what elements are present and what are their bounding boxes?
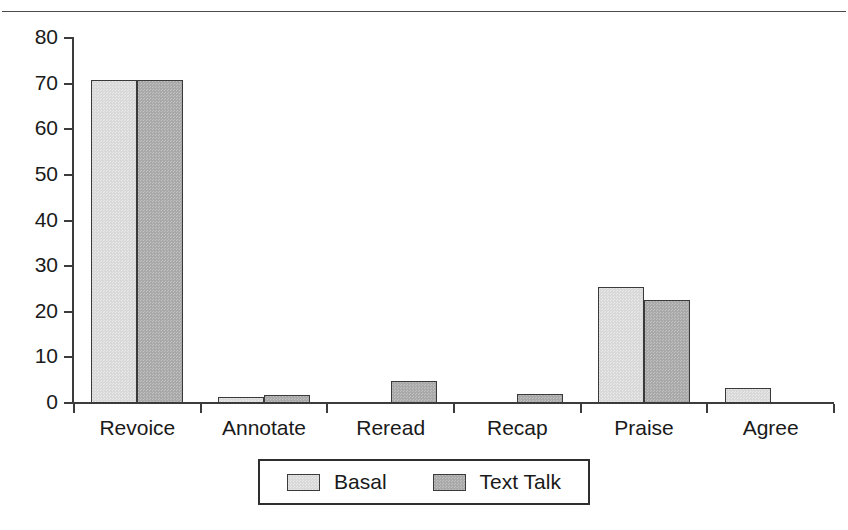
x-tick-mark (73, 404, 75, 413)
header-rule (2, 11, 846, 12)
chart-legend: Basal Text Talk (258, 459, 590, 505)
bar-agree-basal (725, 388, 771, 403)
y-tick-mark (64, 356, 74, 358)
bar-reread-text-talk (391, 381, 437, 403)
legend-swatch-basal (287, 474, 320, 491)
x-label-reread: Reread (356, 416, 425, 440)
bar-annotate-text-talk (264, 395, 310, 403)
bar-praise-basal (598, 287, 644, 403)
bar-annotate-basal (218, 397, 264, 403)
x-label-recap: Recap (487, 416, 548, 440)
x-tick-mark (833, 404, 835, 413)
y-tick-mark (64, 311, 74, 313)
legend-item-basal: Basal (287, 470, 387, 494)
x-tick-mark (200, 404, 202, 413)
bar-praise-text-talk (644, 300, 690, 403)
x-label-praise: Praise (614, 416, 674, 440)
y-tick-label: 40 (6, 208, 58, 232)
page-running-head (0, 0, 848, 14)
x-label-annotate: Annotate (222, 416, 306, 440)
y-tick-mark (64, 128, 74, 130)
x-tick-mark (326, 404, 328, 413)
legend-label-text-talk: Text Talk (480, 470, 561, 494)
x-tick-mark (453, 404, 455, 413)
y-tick-label: 10 (6, 344, 58, 368)
y-tick-mark (64, 37, 74, 39)
y-tick-label: 30 (6, 253, 58, 277)
legend-item-text-talk: Text Talk (433, 470, 561, 494)
bar-recap-text-talk (517, 394, 563, 403)
y-tick-label: 50 (6, 162, 58, 186)
y-tick-label: 20 (6, 299, 58, 323)
x-tick-mark (580, 404, 582, 413)
y-tick-label: 60 (6, 116, 58, 140)
y-tick-mark (64, 220, 74, 222)
plot-area: 01020304050607080 RevoiceAnnotateRereadR… (0, 14, 848, 414)
bar-revoice-text-talk (137, 80, 183, 403)
x-label-agree: Agree (743, 416, 799, 440)
bar-revoice-basal (91, 80, 137, 403)
x-tick-mark (706, 404, 708, 413)
y-tick-mark (64, 83, 74, 85)
x-label-revoice: Revoice (99, 416, 175, 440)
bar-chart: 01020304050607080 RevoiceAnnotateRereadR… (0, 14, 848, 530)
y-tick-label: 80 (6, 25, 58, 49)
legend-label-basal: Basal (334, 470, 387, 494)
legend-swatch-text-talk (433, 474, 466, 491)
y-tick-mark (64, 265, 74, 267)
y-tick-mark (64, 174, 74, 176)
y-tick-label: 0 (6, 390, 58, 414)
y-tick-label: 70 (6, 71, 58, 95)
